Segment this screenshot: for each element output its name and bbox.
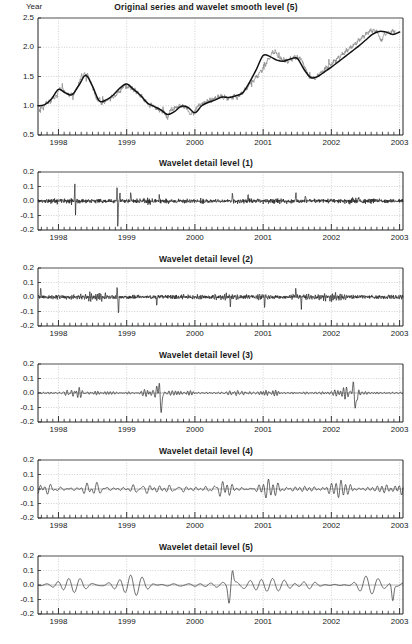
y-tick-label: 0.2	[23, 455, 35, 464]
y-tick-label: 2.5	[23, 13, 35, 22]
plot-area-1: -0.2-0.10.00.10.219981999200020012002200…	[0, 158, 412, 256]
x-tick-label: 1998	[50, 425, 68, 434]
x-tick-label: 2003	[391, 521, 409, 530]
x-tick-label: 1998	[50, 329, 68, 338]
x-tick-label: 2001	[254, 617, 272, 626]
x-tick-label: 1998	[50, 138, 68, 147]
wavelet-detail-line	[38, 288, 403, 313]
x-tick-label: 2003	[391, 138, 409, 147]
plot-area-4: -0.2-0.10.00.10.219981999200020012002200…	[0, 446, 412, 544]
plot-area-3: -0.2-0.10.00.10.219981999200020012002200…	[0, 350, 412, 448]
y-tick-label: 0.1	[23, 182, 35, 191]
y-tick-label: 0.0	[23, 196, 35, 205]
y-tick-label: 0.1	[23, 470, 35, 479]
x-tick-label: 2000	[186, 233, 204, 242]
y-tick-label: -0.1	[20, 595, 34, 604]
x-tick-label: 2002	[322, 329, 340, 338]
wavelet-detail-line	[38, 571, 403, 604]
x-tick-label: 2000	[186, 329, 204, 338]
wavelet-detail-line	[38, 184, 403, 226]
x-tick-label: 2003	[391, 233, 409, 242]
y-tick-label: -0.1	[20, 307, 34, 316]
x-tick-label: 2000	[186, 425, 204, 434]
x-tick-label: 2002	[322, 425, 340, 434]
y-tick-label: -0.2	[20, 609, 34, 618]
x-tick-label: 2001	[254, 425, 272, 434]
y-tick-label: -0.1	[20, 499, 34, 508]
x-tick-label: 2001	[254, 329, 272, 338]
wavelet-detail-line	[38, 382, 403, 413]
x-tick-label: 1998	[50, 617, 68, 626]
y-tick-label: 0.0	[23, 292, 35, 301]
x-tick-label: 2001	[254, 233, 272, 242]
wavelet-detail-line	[38, 479, 403, 498]
x-tick-label: 2001	[254, 521, 272, 530]
x-tick-label: 2002	[322, 233, 340, 242]
y-tick-label: -0.2	[20, 321, 34, 330]
y-tick-label: -0.2	[20, 417, 34, 426]
y-tick-label: 0.2	[23, 359, 35, 368]
x-tick-label: 2003	[391, 425, 409, 434]
x-tick-label: 1999	[118, 329, 136, 338]
plot-area-0: 0.51.01.52.02.5199819992000200120022003	[0, 0, 412, 152]
y-tick-label: 2.0	[23, 42, 35, 51]
y-tick-label: 1.5	[23, 72, 35, 81]
y-tick-label: -0.1	[20, 403, 34, 412]
y-tick-label: -0.1	[20, 211, 34, 220]
x-tick-label: 1999	[118, 521, 136, 530]
y-tick-label: 0.0	[23, 484, 35, 493]
x-tick-label: 2000	[186, 138, 204, 147]
y-tick-label: 0.2	[23, 551, 35, 560]
x-tick-label: 2003	[391, 329, 409, 338]
plot-area-5: -0.2-0.10.00.10.219981999200020012002200…	[0, 542, 412, 642]
wavelet-smooth-line	[38, 31, 400, 114]
x-tick-label: 1999	[118, 425, 136, 434]
panel-detail-1: Wavelet detail level (1) -0.2-0.10.00.10…	[0, 158, 412, 256]
x-tick-label: 1999	[118, 138, 136, 147]
x-tick-label: 2001	[254, 138, 272, 147]
x-tick-label: 2000	[186, 521, 204, 530]
y-tick-label: 0.5	[23, 130, 35, 139]
y-tick-label: 0.1	[23, 374, 35, 383]
x-tick-label: 2000	[186, 617, 204, 626]
panel-detail-4: Wavelet detail level (4) -0.2-0.10.00.10…	[0, 446, 412, 544]
wavelet-decomposition-figure: Year Original series and wavelet smooth …	[0, 0, 412, 644]
x-tick-label: 2002	[322, 521, 340, 530]
panel-original-series: Original series and wavelet smooth level…	[0, 0, 412, 152]
y-tick-label: -0.2	[20, 513, 34, 522]
panel-detail-5: Wavelet detail level (5) -0.2-0.10.00.10…	[0, 542, 412, 642]
panel-detail-3: Wavelet detail level (3) -0.2-0.10.00.10…	[0, 350, 412, 448]
panel-detail-2: Wavelet detail level (2) -0.2-0.10.00.10…	[0, 254, 412, 352]
x-tick-label: 1998	[50, 521, 68, 530]
x-tick-label: 1999	[118, 617, 136, 626]
y-tick-label: 0.0	[23, 580, 35, 589]
y-tick-label: 0.2	[23, 263, 35, 272]
y-tick-label: 0.1	[23, 566, 35, 575]
y-tick-label: 0.0	[23, 388, 35, 397]
y-tick-label: -0.2	[20, 225, 34, 234]
x-tick-label: 2003	[391, 617, 409, 626]
x-tick-label: 1998	[50, 233, 68, 242]
plot-area-2: -0.2-0.10.00.10.219981999200020012002200…	[0, 254, 412, 352]
original-series-line	[38, 29, 395, 120]
y-tick-label: 0.1	[23, 278, 35, 287]
x-tick-label: 2002	[322, 138, 340, 147]
y-tick-label: 1.0	[23, 101, 35, 110]
x-tick-label: 1999	[118, 233, 136, 242]
x-tick-label: 2002	[322, 617, 340, 626]
y-tick-label: 0.2	[23, 167, 35, 176]
